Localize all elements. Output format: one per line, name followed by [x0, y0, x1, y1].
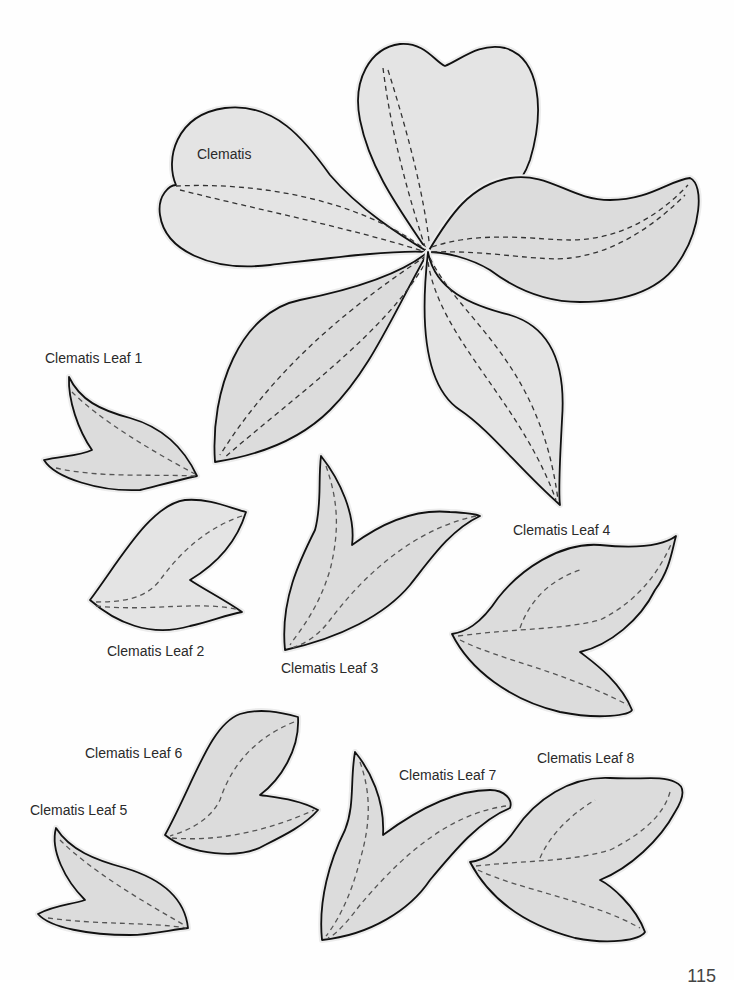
- label-leaf-2: Clematis Leaf 2: [107, 643, 204, 659]
- page-number: 115: [687, 966, 716, 986]
- label-clematis: Clematis: [197, 146, 251, 162]
- label-leaf-4: Clematis Leaf 4: [513, 522, 610, 538]
- label-leaf-5: Clematis Leaf 5: [30, 802, 127, 818]
- petal-right: [428, 177, 699, 302]
- leaf-1-template: [44, 377, 197, 490]
- label-leaf-8: Clematis Leaf 8: [537, 750, 634, 766]
- leaf-5-template: [38, 828, 188, 935]
- label-leaf-7: Clematis Leaf 7: [399, 767, 496, 783]
- petal-lower-left: [214, 252, 428, 462]
- label-leaf-1: Clematis Leaf 1: [45, 350, 142, 366]
- leaf-6-template: [165, 711, 318, 854]
- label-leaf-6: Clematis Leaf 6: [85, 745, 182, 761]
- label-leaf-3: Clematis Leaf 3: [281, 660, 378, 676]
- leaf-4-template: [452, 536, 676, 716]
- leaf-3-template: [284, 456, 480, 650]
- leaf-2-template: [90, 500, 246, 630]
- clematis-flower-template: [160, 44, 699, 505]
